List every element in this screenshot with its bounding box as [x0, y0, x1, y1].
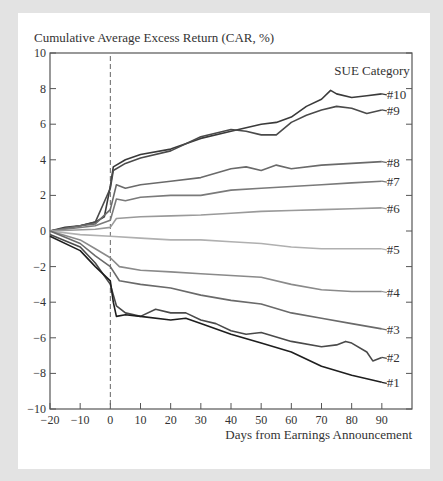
x-tick-label: 70	[316, 413, 328, 427]
axes: −10−8−6−4−20246810−20−100102030405060708…	[27, 46, 412, 427]
x-tick-label: 0	[107, 413, 113, 427]
series-label: #2	[387, 350, 400, 365]
x-tick-label: 80	[346, 413, 358, 427]
y-tick-label: 0	[40, 224, 46, 238]
car-line-chart: Cumulative Average Excess Return (CAR, %…	[0, 0, 443, 481]
y-tick-label: 10	[34, 46, 46, 60]
y-tick-label: 8	[40, 82, 46, 96]
series-label: #4	[387, 285, 401, 300]
series-labels: #10#9#8#7#6#5#4#3#2#1	[382, 87, 407, 390]
series-line-sue-7	[50, 181, 382, 231]
y-tick-label: 2	[40, 188, 46, 202]
series-line-sue-8	[50, 162, 382, 231]
x-tick-label: 40	[225, 413, 237, 427]
x-tick-label: 90	[376, 413, 388, 427]
series-label: #1	[387, 375, 400, 390]
x-tick-label: 50	[255, 413, 267, 427]
x-tick-label: −20	[41, 413, 60, 427]
x-tick-label: 30	[195, 413, 207, 427]
series-label: #8	[387, 155, 400, 170]
y-tick-label: −8	[33, 366, 46, 380]
series-label: #3	[387, 322, 400, 337]
series-label: #7	[387, 174, 401, 189]
x-tick-label: 60	[285, 413, 297, 427]
series-label: #10	[387, 87, 407, 102]
x-axis-label: Days from Earnings Announcement	[225, 427, 412, 442]
series-label: #9	[387, 103, 400, 118]
y-tick-label: −4	[33, 295, 46, 309]
series-line-sue-3	[50, 231, 382, 329]
series-label: #5	[387, 242, 400, 257]
series-line-sue-5	[50, 231, 382, 249]
y-tick-label: −6	[33, 331, 46, 345]
y-tick-label: 4	[40, 153, 46, 167]
y-axis-label: Cumulative Average Excess Return (CAR, %…	[34, 30, 274, 45]
x-tick-label: 20	[165, 413, 177, 427]
legend-title: SUE Category	[334, 63, 410, 78]
y-tick-label: −2	[33, 260, 46, 274]
y-tick-label: 6	[40, 117, 46, 131]
x-tick-label: 10	[135, 413, 147, 427]
series-line-sue-9	[50, 106, 382, 231]
series-lines	[50, 90, 382, 382]
plot-frame	[50, 53, 412, 409]
series-label: #6	[387, 201, 401, 216]
x-tick-label: −10	[71, 413, 90, 427]
